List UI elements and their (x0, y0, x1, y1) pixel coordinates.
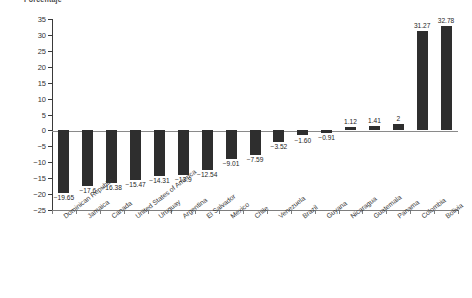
y-axis-tick-label: 25 (38, 46, 46, 55)
bar (58, 130, 69, 193)
y-axis-line (52, 19, 53, 210)
y-axis-tick (48, 51, 52, 52)
y-axis-tick (48, 67, 52, 68)
bar (82, 130, 93, 186)
bar (369, 126, 380, 130)
y-axis-tick-label: −15 (33, 174, 46, 183)
bar (345, 127, 356, 131)
y-axis-tick-label: 30 (38, 30, 46, 39)
bar (321, 130, 332, 133)
y-axis-tick (48, 162, 52, 163)
x-axis-labels: Dominican RepublicJamaicaCanadaUnited St… (52, 214, 458, 298)
y-axis-tick-label: −25 (33, 206, 46, 215)
bar (106, 130, 117, 182)
bar-value-label: 32.78 (426, 17, 466, 24)
bar (130, 130, 141, 179)
y-axis-tick (48, 35, 52, 36)
y-axis-tick-label: 35 (38, 15, 46, 24)
chart-title: Porcentaje (24, 0, 62, 3)
y-axis-tick (48, 178, 52, 179)
y-axis-tick (48, 19, 52, 20)
y-axis-tick (48, 130, 52, 131)
bar (154, 130, 165, 176)
y-axis-tick-label: 0 (42, 126, 46, 135)
y-axis-tick-label: −5 (37, 142, 46, 151)
y-axis-tick-label: −10 (33, 158, 46, 167)
bar (178, 130, 189, 174)
bar-value-label: −3.52 (259, 143, 299, 150)
y-axis-tick (48, 99, 52, 100)
y-axis-tick (48, 83, 52, 84)
y-axis-tick-label: 5 (42, 110, 46, 119)
bar-chart: Porcentaje 35302520151050−5−10−15−20−25 … (0, 0, 472, 298)
bar-value-label: 2 (378, 115, 418, 122)
y-axis-tick (48, 115, 52, 116)
y-axis-tick-label: 15 (38, 78, 46, 87)
bar (393, 124, 404, 130)
bar-value-label: −0.91 (307, 134, 347, 141)
bar (417, 31, 428, 131)
y-axis-tick-label: 20 (38, 62, 46, 71)
bar (441, 26, 452, 130)
bar-value-label: −7.59 (235, 156, 275, 163)
y-axis-tick (48, 146, 52, 147)
y-axis-tick-label: 10 (38, 94, 46, 103)
